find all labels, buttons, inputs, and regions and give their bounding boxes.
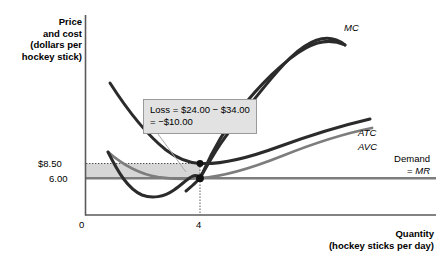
y-axis-title-line-4: hockey stick) — [4, 51, 82, 63]
mc-curve-label: MC — [344, 22, 359, 33]
y-tick-label-6-00: 6.00 — [49, 173, 68, 184]
y-axis-title-line-2: and cost — [4, 28, 82, 40]
demand-label-line-2: = MR — [330, 165, 430, 177]
y-tick-label-8-50: $8.50 — [38, 158, 62, 169]
x-axis-title: Quantity (hockey sticks per day) — [268, 228, 434, 251]
loss-callout-line-1: Loss = $24.00 − $34.00 — [150, 104, 250, 116]
y-axis-title-line-3: (dollars per — [4, 39, 82, 51]
demand-label-line-1: Demand — [330, 153, 430, 165]
x-axis-title-line-1: Quantity — [268, 228, 434, 240]
loss-callout-line-2: = −$10.00 — [150, 116, 250, 128]
point-atc-at-q4 — [197, 160, 204, 167]
demand-mr-label: Demand = MR — [330, 153, 430, 176]
x-tick-label-4: 4 — [196, 219, 201, 230]
loss-callout-box: Loss = $24.00 − $34.00 = −$10.00 — [143, 99, 257, 134]
y-axis-title: Price and cost (dollars per hockey stick… — [4, 16, 82, 62]
avc-curve-label: AVC — [358, 141, 377, 152]
demand-equals-prefix: = — [407, 165, 415, 176]
loss-shaded-rectangle — [86, 164, 200, 179]
point-price-at-q4 — [196, 174, 204, 182]
x-tick-label-0: 0 — [79, 219, 84, 230]
x-axis-title-line-2: (hockey sticks per day) — [268, 240, 434, 252]
atc-curve-label: ATC — [358, 127, 376, 138]
figure-canvas: Price and cost (dollars per hockey stick… — [0, 0, 438, 271]
mr-italic-text: MR — [415, 165, 430, 176]
y-axis-title-line-1: Price — [4, 16, 82, 28]
